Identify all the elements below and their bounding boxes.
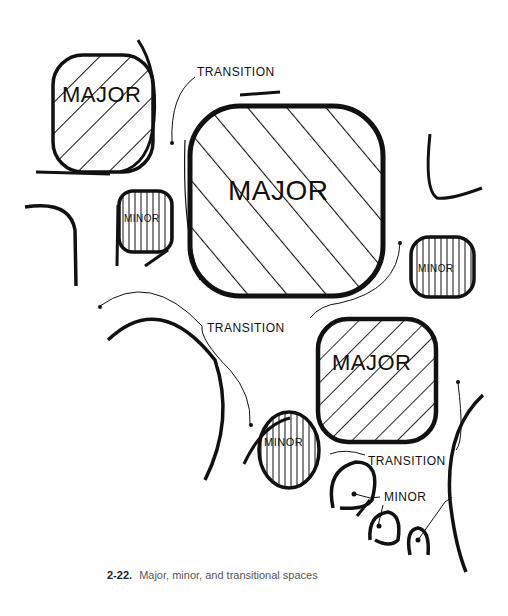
- figure-caption-text: Major, minor, and transitional spaces: [139, 569, 318, 581]
- figure-caption: 2-22. Major, minor, and transitional spa…: [107, 569, 318, 581]
- minor-space-right: MINOR: [411, 237, 474, 297]
- major-space-top-left: MAJOR: [36, 40, 155, 174]
- major-space-center: MAJOR: [185, 92, 383, 296]
- minor-label: MINOR: [124, 213, 160, 224]
- transition-label-middle: TRANSITION: [207, 321, 285, 335]
- small-minor-spaces: [331, 462, 428, 555]
- minor-label: MINOR: [418, 263, 454, 274]
- minor-space-bottom: MINOR: [244, 412, 319, 488]
- transition-label-bottom: TRANSITION: [368, 454, 446, 468]
- transition-label-top: TRANSITION: [197, 65, 275, 79]
- major-space-lower-right: MAJOR: [318, 319, 436, 442]
- major-label: MAJOR: [62, 82, 142, 107]
- figure-number: 2-22.: [107, 569, 132, 581]
- major-label: MAJOR: [228, 175, 329, 206]
- minor-label: MINOR: [264, 436, 303, 448]
- major-label: MAJOR: [332, 350, 412, 375]
- minor-space-left: MINOR: [117, 191, 172, 266]
- spaces-diagram: MAJOR MAJOR MAJOR MINOR MINOR MINOR: [0, 0, 508, 616]
- minor-callout-label: MINOR: [384, 490, 427, 504]
